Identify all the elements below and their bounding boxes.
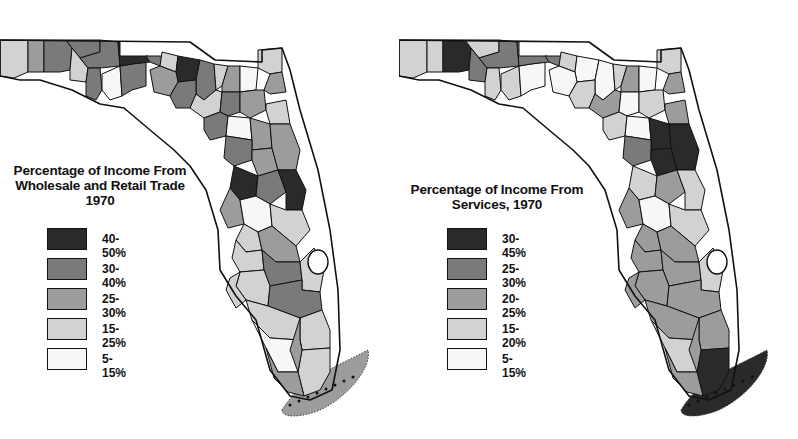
title-line-1: Percentage of Income From [399, 182, 595, 197]
legend-label: 15-20% [502, 322, 526, 350]
island-dot [742, 380, 745, 383]
legend-swatch [47, 318, 87, 340]
legend-swatch [47, 288, 87, 310]
map-title-services: Percentage of Income From Services, 1970 [399, 182, 595, 212]
county-region [240, 66, 258, 92]
legend-label: 30-40% [102, 262, 126, 290]
lake-okeechobee [707, 250, 727, 274]
island-dot [697, 400, 700, 403]
island-dot [289, 404, 292, 407]
legend-swatch [47, 228, 87, 250]
legend-swatch [447, 348, 487, 370]
county-region [485, 68, 501, 100]
title-line-2: Services, 1970 [399, 197, 595, 212]
county-region [519, 62, 545, 96]
county-region [649, 118, 671, 150]
legend-label: 30-45% [502, 232, 526, 260]
county-region [443, 40, 471, 72]
legend-swatch [447, 288, 487, 310]
county-region [300, 310, 330, 350]
county-region [86, 68, 102, 100]
legend-swatch [447, 258, 487, 280]
island-dot [751, 376, 754, 379]
county-region [266, 100, 290, 124]
island-dot [706, 396, 709, 399]
county-region [44, 40, 72, 72]
county-region [427, 40, 443, 72]
legend-label: 40-50% [102, 232, 126, 260]
county-region [264, 72, 286, 94]
map-title-wholesale-retail: Percentage of Income From Wholesale and … [0, 163, 200, 208]
legend-label: 15-25% [102, 322, 126, 350]
island-dot [316, 392, 319, 395]
island-dot [298, 400, 301, 403]
legend-swatch [47, 258, 87, 280]
legend-label: 5-15% [102, 352, 126, 380]
title-line-2: Wholesale and Retail Trade [0, 178, 200, 193]
county-region [699, 310, 729, 350]
county-region [240, 90, 266, 118]
island-dot [715, 392, 718, 395]
legend-label: 25-30% [502, 262, 526, 290]
island-dot [325, 388, 328, 391]
map-panel-wholesale-retail: Percentage of Income From Wholesale and … [0, 0, 399, 439]
county-region [603, 112, 627, 140]
county-region [204, 112, 228, 140]
title-line-1: Percentage of Income From [0, 163, 200, 178]
legend-label: 25-30% [102, 292, 126, 320]
county-region [663, 72, 685, 94]
island-dot [724, 388, 727, 391]
island-dot [688, 404, 691, 407]
island-dot [352, 376, 355, 379]
florida-map-services [399, 0, 798, 439]
county-region [639, 90, 665, 118]
county-region [399, 40, 427, 78]
county-region [220, 92, 240, 116]
legend-label: 20-25% [502, 292, 526, 320]
county-region [118, 42, 150, 66]
county-region [619, 92, 639, 116]
county-region [120, 62, 146, 96]
legend-swatch [447, 318, 487, 340]
county-region [28, 40, 44, 72]
county-region [623, 136, 651, 166]
lake-okeechobee [308, 250, 328, 274]
legend-swatch [47, 348, 87, 370]
island-dot [307, 396, 310, 399]
legend-swatch [447, 228, 487, 250]
legend-label: 5-15% [502, 352, 526, 380]
county-region [517, 42, 549, 66]
county-region [250, 118, 272, 150]
map-panel-services: Percentage of Income From Services, 1970… [399, 0, 798, 439]
county-region [501, 66, 521, 100]
county-region [102, 66, 122, 100]
county-region [0, 40, 28, 78]
title-line-3: 1970 [0, 193, 200, 208]
florida-map-wholesale-retail [0, 0, 399, 439]
island-dot [343, 380, 346, 383]
county-region [224, 136, 252, 166]
county-region [665, 100, 689, 124]
county-region [639, 66, 657, 92]
